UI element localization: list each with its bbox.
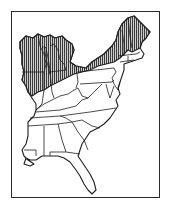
range-map [0, 0, 170, 207]
